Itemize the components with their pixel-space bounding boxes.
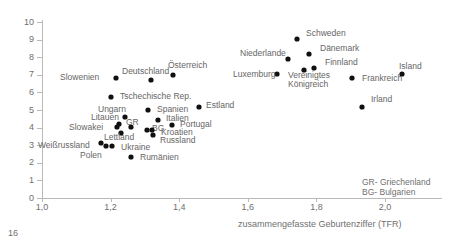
x-tick-label: 1,2 xyxy=(104,203,117,212)
data-point[interactable] xyxy=(129,155,133,159)
y-tick-mark xyxy=(37,128,42,129)
data-point[interactable] xyxy=(197,105,201,109)
data-point-label: Slowakei xyxy=(69,123,103,133)
y-tick-label: 5 xyxy=(10,106,34,115)
data-point[interactable] xyxy=(145,128,149,132)
y-tick-mark xyxy=(37,110,42,111)
y-tick-label: 8 xyxy=(10,53,34,62)
x-tick-label: 1,6 xyxy=(242,203,255,212)
y-tick-label: 2 xyxy=(10,158,34,167)
data-point-label: Rumänien xyxy=(140,153,179,163)
data-point-label: Polen xyxy=(80,151,102,161)
x-axis-title: zusammengefasste Geburtenziffer (TFR) xyxy=(238,219,401,229)
y-tick-label: 3 xyxy=(10,141,34,150)
data-point-label: Estland xyxy=(206,101,234,111)
data-point[interactable] xyxy=(295,37,299,41)
y-tick-label: 1 xyxy=(10,176,34,185)
abbreviation-bulgaria: BG- Bulgarien xyxy=(362,187,431,197)
data-point-label: Schweden xyxy=(306,29,346,39)
data-point-label: Dänemark xyxy=(320,44,359,54)
data-point-label: Deutschland xyxy=(122,67,169,77)
abbreviation-greece: GR- Griechenland xyxy=(362,177,431,187)
abbreviation-legend: GR- Griechenland BG- Bulgarien xyxy=(362,177,431,197)
data-point-label: Frankreich xyxy=(362,74,402,84)
data-point[interactable] xyxy=(150,128,154,132)
y-tick-label: 9 xyxy=(10,35,34,44)
data-point-label: Finnland xyxy=(325,58,358,68)
data-point[interactable] xyxy=(156,118,160,122)
y-tick-label: 7 xyxy=(10,70,34,79)
data-point[interactable] xyxy=(109,95,113,99)
data-point[interactable] xyxy=(286,57,290,61)
data-point-label: Luxemburg xyxy=(233,70,276,80)
x-tick-label: 1,8 xyxy=(310,203,323,212)
data-point[interactable] xyxy=(146,108,150,112)
data-point[interactable] xyxy=(151,133,155,137)
data-point[interactable] xyxy=(110,144,114,148)
x-tick-label: 2,0 xyxy=(379,203,392,212)
data-point-label: Niederlande xyxy=(240,49,286,59)
data-point-label: Österreich xyxy=(168,61,207,71)
data-point[interactable] xyxy=(170,123,174,127)
y-tick-mark xyxy=(37,22,42,23)
y-tick-mark xyxy=(37,92,42,93)
data-point-label: Tschechische Rep. xyxy=(120,92,191,102)
data-point[interactable] xyxy=(114,76,118,80)
y-tick-mark xyxy=(37,163,42,164)
y-tick-label: 0 xyxy=(10,194,34,203)
scatter-chart: 012345678910 1,01,21,41,61,82,0 Slowenie… xyxy=(0,0,458,244)
data-point[interactable] xyxy=(400,72,404,76)
y-tick-label: 6 xyxy=(10,88,34,97)
y-tick-label: 10 xyxy=(10,18,34,27)
y-tick-mark xyxy=(37,75,42,76)
data-point[interactable] xyxy=(360,105,364,109)
data-point[interactable] xyxy=(307,52,311,56)
y-tick-mark xyxy=(37,57,42,58)
data-point[interactable] xyxy=(350,76,354,80)
data-point[interactable] xyxy=(171,73,175,77)
y-tick-mark xyxy=(37,180,42,181)
data-point-label: Russland xyxy=(160,136,195,146)
data-point-label: Irland xyxy=(371,95,392,105)
y-tick-label: 4 xyxy=(10,123,34,132)
data-point[interactable] xyxy=(115,125,119,129)
page-number: 16 xyxy=(8,228,18,238)
x-tick-label: 1,0 xyxy=(36,203,49,212)
x-tick-label: 1,4 xyxy=(173,203,186,212)
data-point-label: GR xyxy=(126,118,139,128)
y-tick-mark xyxy=(37,40,42,41)
data-point-label: Slowenien xyxy=(60,73,99,83)
data-point-label-line: Königreich xyxy=(288,80,330,89)
data-point-label: Portugal xyxy=(180,120,212,130)
data-point-label: VereinigtesKönigreich xyxy=(288,71,330,89)
x-axis-line xyxy=(42,198,442,199)
data-point[interactable] xyxy=(149,78,153,82)
y-axis-line xyxy=(42,20,43,199)
data-point[interactable] xyxy=(104,144,108,148)
data-point[interactable] xyxy=(99,141,103,145)
data-point-label: Island xyxy=(399,62,422,72)
